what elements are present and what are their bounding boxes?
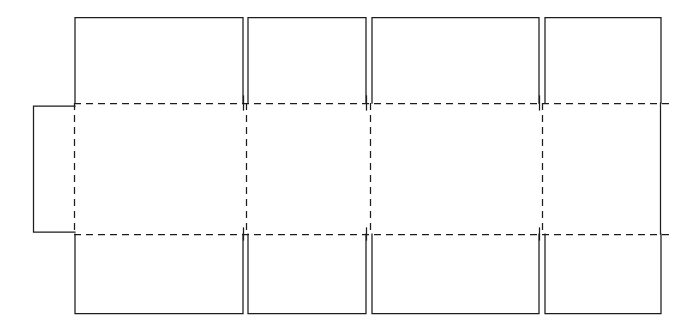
box-dieline-drawing xyxy=(0,0,695,334)
figure-root xyxy=(0,0,695,334)
drawing-background xyxy=(0,0,695,334)
